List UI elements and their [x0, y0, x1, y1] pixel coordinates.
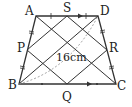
tick-mark-qc — [96, 83, 98, 85]
tick-mark-rc — [109, 66, 114, 67]
tick-mark-ap — [29, 33, 34, 34]
parallel-arrow-icon — [87, 82, 92, 87]
quadrilateral-pqrs — [27, 16, 107, 84]
label-p: P — [17, 41, 25, 55]
label-d: D — [100, 4, 110, 18]
parallel-arrow-icon — [78, 14, 83, 19]
trapezoid-diagram: A S D P R B C Q 16cm — [0, 0, 132, 107]
trapezoid-abcd — [19, 16, 116, 84]
tick-mark-pb — [20, 68, 25, 69]
label-s: S — [63, 1, 71, 15]
label-a: A — [24, 4, 34, 18]
label-q: Q — [62, 90, 72, 104]
label-b: B — [8, 78, 17, 92]
diagonal-bd — [19, 16, 98, 84]
tick-mark-dr — [100, 30, 105, 31]
label-r: R — [109, 41, 119, 55]
measurement-label: 16cm — [56, 51, 87, 64]
tick-mark-ap — [29, 31, 34, 32]
tick-mark-bq — [41, 83, 43, 85]
tick-mark-rc — [109, 68, 114, 69]
tick-mark-pb — [20, 66, 25, 67]
diagonal-ac — [36, 16, 116, 84]
tick-mark-dr — [100, 32, 105, 33]
label-c: C — [117, 79, 126, 93]
